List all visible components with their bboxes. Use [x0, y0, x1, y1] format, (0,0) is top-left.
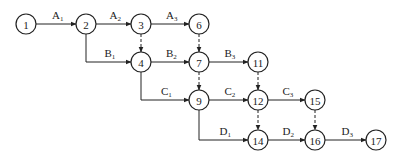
activity-label-a3: A3	[166, 9, 178, 23]
activity-label-b2: B2	[166, 47, 177, 61]
svg-text:11: 11	[253, 57, 264, 69]
network-diagram: A1A2A3B1B2B3C1C2C3D1D2D3 123647119121514…	[0, 0, 399, 159]
event-node-16: 16	[305, 130, 325, 150]
activity-label-a2: A2	[110, 9, 122, 23]
event-node-4: 4	[131, 52, 151, 72]
activity-arrows	[36, 24, 366, 140]
event-node-2: 2	[76, 14, 96, 34]
svg-text:4: 4	[138, 57, 144, 69]
svg-text:17: 17	[371, 135, 383, 147]
event-node-1: 1	[16, 14, 36, 34]
event-node-9: 9	[189, 90, 209, 110]
event-node-12: 12	[248, 90, 268, 110]
activity-label-d3: D3	[342, 125, 354, 139]
svg-text:7: 7	[196, 57, 202, 69]
svg-text:12: 12	[253, 95, 264, 107]
activity-label-c2: C2	[225, 85, 236, 99]
svg-text:1: 1	[23, 19, 29, 31]
svg-text:3: 3	[138, 19, 144, 31]
activity-label-b1: B1	[105, 47, 116, 61]
activity-label-b3: B3	[225, 47, 236, 61]
activity-label-c3: C3	[283, 85, 294, 99]
svg-text:2: 2	[83, 19, 89, 31]
svg-text:9: 9	[196, 95, 202, 107]
activity-label-c1: C1	[161, 85, 172, 99]
svg-text:15: 15	[310, 95, 322, 107]
event-node-14: 14	[248, 130, 268, 150]
svg-text:6: 6	[196, 19, 202, 31]
event-node-15: 15	[305, 90, 325, 110]
event-node-11: 11	[248, 52, 268, 72]
activity-label-a1: A1	[52, 9, 64, 23]
event-nodes: 1236471191215141617	[16, 14, 386, 150]
svg-text:14: 14	[253, 135, 265, 147]
event-node-3: 3	[131, 14, 151, 34]
activity-label-d1: D1	[220, 125, 232, 139]
event-node-17: 17	[366, 130, 386, 150]
svg-text:16: 16	[310, 135, 322, 147]
event-node-6: 6	[189, 14, 209, 34]
event-node-7: 7	[189, 52, 209, 72]
activity-label-d2: D2	[283, 125, 295, 139]
